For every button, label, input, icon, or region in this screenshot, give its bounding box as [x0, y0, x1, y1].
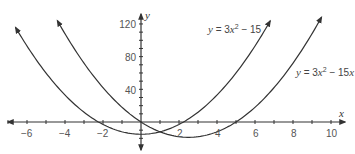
x-axis [8, 120, 345, 124]
x-axis-label: x [338, 107, 344, 119]
y-tick-label: 120 [119, 19, 136, 30]
equation-label-2: y = 3x2 − 15x [295, 66, 354, 78]
x-tick-label: −6 [21, 128, 33, 139]
x-tick-label: 8 [291, 128, 297, 139]
x-tick-label: 4 [215, 128, 221, 139]
x-tick-label: 2 [177, 128, 183, 139]
x-tick-label: −4 [59, 128, 71, 139]
x-tick-label: −2 [97, 128, 109, 139]
y-axis-label: y [144, 9, 150, 21]
curve-3x2-minus-15 [16, 21, 271, 134]
y-tick-label: 80 [125, 52, 137, 63]
x-tick-label: 10 [326, 128, 338, 139]
chart-svg: −6 −4 −2 2 4 6 8 10 40 80 120 y x y = 3x… [0, 0, 355, 154]
x-tick-label: 6 [253, 128, 259, 139]
equation-label-1: y = 3x2 − 15 [207, 23, 262, 35]
curve-3x2-minus-15x [57, 17, 321, 137]
y-tick-label: 40 [125, 85, 137, 96]
graph-container: −6 −4 −2 2 4 6 8 10 40 80 120 y x y = 3x… [0, 0, 355, 154]
y-axis [139, 14, 143, 150]
